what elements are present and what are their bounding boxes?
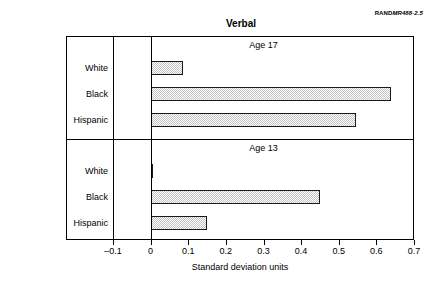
panel-label-age-13: Age 13 <box>113 143 414 153</box>
x-axis-tick <box>376 240 377 245</box>
x-axis-tick-label: 0.6 <box>356 246 396 256</box>
x-axis-tick <box>414 240 415 245</box>
x-axis-tick-label: 0.3 <box>244 246 284 256</box>
bar-age13-hispanic <box>151 216 207 230</box>
x-axis-tick <box>264 240 265 245</box>
panel-label-age-17: Age 17 <box>113 40 414 50</box>
category-label: White <box>66 163 108 179</box>
bar-row: Black <box>66 86 414 102</box>
x-axis-tick <box>339 240 340 245</box>
x-axis-tick-label: 0.5 <box>319 246 359 256</box>
rand-logo-text: RAND <box>375 10 393 16</box>
panel-age-13: Age 13 White Black Hispanic <box>66 139 414 240</box>
x-axis-tick-label: –0.1 <box>93 246 133 256</box>
category-label: White <box>66 60 108 76</box>
x-axis: Standard deviation units –0.100.10.20.30… <box>66 240 414 286</box>
panel-age-17: Age 17 White Black Hispanic <box>66 36 414 139</box>
bar-age17-hispanic <box>151 113 356 127</box>
bar-row: White <box>66 60 414 76</box>
x-axis-tick <box>151 240 152 245</box>
bar-row: Hispanic <box>66 112 414 128</box>
bar-row: Hispanic <box>66 215 414 231</box>
x-axis-tick-label: 0 <box>131 246 171 256</box>
x-axis-tick <box>226 240 227 245</box>
x-axis-tick-label: 0.2 <box>206 246 246 256</box>
category-label: Black <box>66 189 108 205</box>
figure: RANDMR488-2.5 Verbal Age 17 White Black … <box>0 0 429 288</box>
x-axis-tick-label: 0.4 <box>281 246 321 256</box>
bar-row: White <box>66 163 414 179</box>
bar-age17-white <box>151 61 183 75</box>
x-axis-label: Standard deviation units <box>66 262 414 272</box>
chart-title: Verbal <box>66 18 416 29</box>
category-label: Hispanic <box>66 112 108 128</box>
x-axis-tick <box>301 240 302 245</box>
category-label: Hispanic <box>66 215 108 231</box>
category-label: Black <box>66 86 108 102</box>
bar-age13-black <box>151 190 320 204</box>
rand-report-number: MR488-2.5 <box>392 10 423 16</box>
x-axis-tick <box>188 240 189 245</box>
x-axis-tick-label: 0.7 <box>394 246 429 256</box>
rand-credit-line: RANDMR488-2.5 <box>375 10 423 16</box>
x-axis-tick-label: 0.1 <box>168 246 208 256</box>
x-axis-tick <box>113 240 114 245</box>
bar-age17-black <box>151 87 392 101</box>
zero-reference-line <box>151 36 152 240</box>
bar-row: Black <box>66 189 414 205</box>
